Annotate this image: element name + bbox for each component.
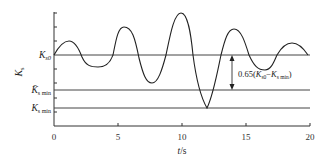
x-tick-20: 20 xyxy=(306,132,316,142)
ks-min-label: Ks min xyxy=(30,103,51,114)
difference-arrow xyxy=(230,55,235,90)
ksbar-min-label: K̄s min xyxy=(30,85,51,96)
x-tick-0: 0 xyxy=(52,132,57,142)
x-axis-label: t/s xyxy=(178,146,187,156)
ks0-label: Ks0 xyxy=(38,50,52,61)
chart: 0 5 10 15 20 t/s Ks Ks0 K̄s min Ks min 0… xyxy=(0,0,327,164)
difference-annotation: 0.65(Ks0−Ks min) xyxy=(238,69,292,80)
x-tick-10: 10 xyxy=(178,132,188,142)
y-axis-label: Ks xyxy=(13,67,25,78)
x-tick-5: 5 xyxy=(116,132,121,142)
ks-curve xyxy=(54,13,308,108)
x-tick-15: 15 xyxy=(242,132,252,142)
